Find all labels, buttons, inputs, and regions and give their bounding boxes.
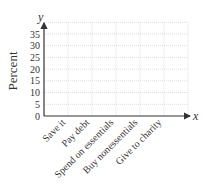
chart: y x Percent 05101520253035 Save itPay de… [0,0,204,193]
y-axis-letter: y [37,10,44,24]
y-tick-label: 5 [35,99,40,110]
y-axis-title: Percent [5,51,20,90]
gridlines [44,22,188,116]
y-tick-label: 10 [30,87,40,98]
y-tick-label: 0 [35,111,40,122]
y-tick-label: 30 [30,40,40,51]
y-tick-label: 20 [30,64,40,75]
x-category-labels: Save itPay debtSpend on essentialsBuy no… [40,116,163,179]
y-tick-label: 15 [30,75,40,86]
y-tick-label: 35 [30,29,40,40]
y-tick-labels: 05101520253035 [30,29,40,122]
y-tick-label: 25 [30,52,40,63]
x-axis-letter: x [192,109,199,123]
